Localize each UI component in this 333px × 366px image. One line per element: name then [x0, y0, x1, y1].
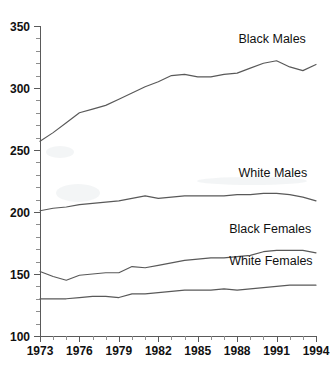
x-tick-label-1985: 1985: [184, 344, 211, 358]
series-label-black-females: Black Females: [229, 222, 311, 236]
x-tick-label-1979: 1979: [106, 344, 133, 358]
mortality-rate-line-chart: 100150200250300350 197319761979198219851…: [0, 0, 333, 366]
y-tick-label-200: 200: [10, 206, 30, 220]
x-tick-label-1988: 1988: [224, 344, 251, 358]
x-tick-label-1982: 1982: [145, 344, 172, 358]
y-tick-label-100: 100: [10, 330, 30, 344]
series-label-white-males: White Males: [238, 166, 307, 180]
y-tick-label-250: 250: [10, 144, 30, 158]
series-line-white-females: [40, 285, 316, 299]
chart-canvas: 100150200250300350 197319761979198219851…: [0, 0, 333, 366]
series-line-black-males: [40, 61, 316, 142]
x-axis-tick-labels: 19731976197919821985198819911994: [27, 344, 330, 358]
x-tick-label-1991: 1991: [263, 344, 290, 358]
y-tick-label-300: 300: [10, 82, 30, 96]
series-label-black-males: Black Males: [238, 32, 305, 46]
x-tick-label-1976: 1976: [66, 344, 93, 358]
series-label-white-females: White Females: [229, 254, 312, 268]
x-tick-label-1994: 1994: [303, 344, 330, 358]
y-tick-label-350: 350: [10, 20, 30, 34]
x-tick-label-1973: 1973: [27, 344, 54, 358]
y-tick-label-150: 150: [10, 268, 30, 282]
y-axis-tick-labels: 100150200250300350: [10, 20, 30, 344]
series-inline-labels: Black MalesWhite MalesBlack FemalesWhite…: [229, 32, 312, 268]
